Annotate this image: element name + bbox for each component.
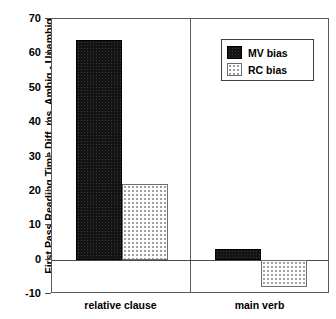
y-axis-tick-label: 0 bbox=[35, 253, 41, 265]
legend-item-mv-bias: MV bias bbox=[227, 44, 308, 61]
bar-rc-bias-relative-clause bbox=[122, 184, 168, 260]
legend-label: RC bias bbox=[248, 64, 287, 76]
y-axis-tick-label: -10 bbox=[25, 287, 41, 299]
light-dotted-swatch-icon bbox=[227, 63, 242, 76]
y-axis-tick-label: 60 bbox=[29, 46, 41, 58]
y-axis-tick-label: 70 bbox=[29, 12, 41, 24]
x-axis-label-relative-clause: relative clause bbox=[51, 299, 190, 311]
bar-mv-bias-relative-clause bbox=[76, 40, 122, 260]
legend: MV bias RC bias bbox=[221, 39, 314, 81]
bar-mv-bias-main-verb bbox=[215, 249, 261, 259]
y-axis-tick-label: 40 bbox=[29, 115, 41, 127]
bar-rc-bias-main-verb bbox=[261, 260, 307, 288]
y-axis-tick-label: 50 bbox=[29, 81, 41, 93]
legend-label: MV bias bbox=[248, 47, 288, 59]
y-axis-tick-label: 20 bbox=[29, 184, 41, 196]
dark-dotted-swatch-icon bbox=[227, 46, 242, 59]
y-axis-tick-label: 30 bbox=[29, 150, 41, 162]
x-axis-label-main-verb: main verb bbox=[190, 299, 329, 311]
bar-chart: First Pass Reading Time Diff, ms, Ambig … bbox=[0, 0, 336, 319]
y-axis-tick-mark bbox=[45, 293, 51, 294]
y-axis-tick-label: 10 bbox=[29, 218, 41, 230]
panel-divider bbox=[190, 19, 191, 292]
legend-item-rc-bias: RC bias bbox=[227, 61, 308, 78]
